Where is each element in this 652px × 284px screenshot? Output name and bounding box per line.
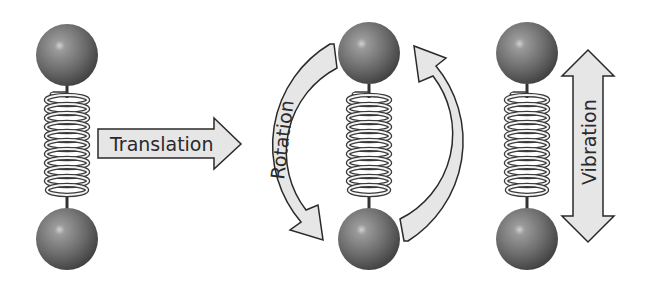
vibration-arrow: Vibration xyxy=(562,50,614,242)
vibration-label: Vibration xyxy=(578,99,600,185)
atom-top-icon xyxy=(36,24,98,86)
atom-bottom-icon xyxy=(36,208,98,270)
molecule-2 xyxy=(338,22,400,270)
curved-arrow-up-icon xyxy=(400,46,463,241)
molecule-3 xyxy=(496,22,558,270)
spring-icon xyxy=(348,84,390,210)
atom-top-icon xyxy=(496,22,558,84)
spring-icon xyxy=(506,84,548,210)
rotation-label: Rotation xyxy=(266,99,298,181)
atom-bottom-icon xyxy=(496,208,558,270)
translation-label: Translation xyxy=(109,133,214,155)
atom-top-icon xyxy=(338,22,400,84)
spring-icon xyxy=(46,84,88,210)
molecular-motion-diagram: Translation Rotation Vibration xyxy=(0,0,652,284)
translation-arrow: Translation xyxy=(98,118,241,169)
atom-bottom-icon xyxy=(338,208,400,270)
molecule-1 xyxy=(36,24,98,270)
